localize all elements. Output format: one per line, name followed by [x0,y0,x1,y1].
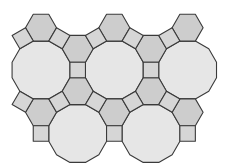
square-tile [107,126,123,142]
square-tile [143,62,159,78]
square-tile [33,126,49,142]
dodecagon-tile [122,105,180,163]
square-tile [180,126,196,142]
dodecagon-tile [49,105,107,163]
square-tile [70,62,86,78]
dodecagon-tile [85,41,143,99]
dodecagon-tile [159,41,217,99]
tiling-diagram: Truncated trihexagonal tiling patch [0,0,225,164]
dodecagon-tile [12,41,70,99]
